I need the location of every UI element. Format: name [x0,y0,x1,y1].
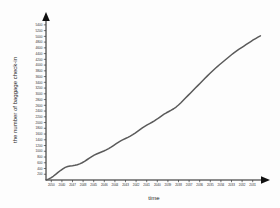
x-tick-label: 2043 [122,183,129,187]
y-tick-label: 4800 [36,40,43,44]
y-tick-label: 2400 [36,109,43,113]
x-tick-label: 2042 [133,183,140,187]
x-tick-label: 2035 [207,183,214,187]
x-tick-label: 2045 [90,183,97,187]
chart-container: 2004006008001000120014001600180020002200… [0,0,280,208]
x-tick-label: 2038 [175,183,182,187]
y-axis-title: the number of baggage check-in [12,57,18,143]
y-tick-label: 3600 [36,75,43,79]
y-tick-label: 2600 [36,104,43,108]
y-tick-label: 1200 [36,144,43,148]
y-tick-label: 3400 [36,81,43,85]
y-tick-label: 400 [37,167,42,171]
y-tick-label: 600 [37,161,42,165]
y-tick-label: 200 [37,172,42,176]
x-tick-label: 2040 [59,183,66,187]
y-tick-label: 5200 [36,29,43,33]
y-tick-label: 3000 [36,92,43,96]
y-tick-label: 2000 [36,121,43,125]
y-tick-label: 1000 [36,149,43,153]
y-tick-label: 4000 [36,63,43,67]
y-tick-label: 2800 [36,98,43,102]
y-tick-label: 3800 [36,69,43,73]
x-tick-label: 2040 [154,183,161,187]
x-tick-label: 2039 [165,183,172,187]
y-tick-label: 800 [37,155,42,159]
x-tick-label: 2032 [239,183,246,187]
x-tick-label: 2044 [112,183,119,187]
x-tick-label: 2050 [48,183,55,187]
y-tick-label: 1800 [36,126,43,130]
y-tick-label: 1600 [36,132,43,136]
line-chart: 2004006008001000120014001600180020002200… [0,0,280,208]
x-tick-label: 2037 [186,183,193,187]
x-tick-label: 2033 [228,183,235,187]
y-tick-label: 5400 [36,23,43,27]
y-tick-label: 5000 [36,35,43,39]
y-tick-label: 2200 [36,115,43,119]
y-tick-label: 4200 [36,58,43,62]
x-tick-label: 2046 [101,183,108,187]
x-tick-label: 2047 [69,183,76,187]
y-tick-label: 3200 [36,86,43,90]
y-tick-label: 1400 [36,138,43,142]
y-tick-label: 4600 [36,46,43,50]
x-tick-label: 2031 [249,183,256,187]
x-tick-label: 2034 [218,183,225,187]
x-tick-label: 2048 [80,183,87,187]
x-tick-label: 2041 [143,183,150,187]
y-tick-label: 4400 [36,52,43,56]
x-axis-title: time [148,195,160,201]
x-tick-label: 2036 [196,183,203,187]
